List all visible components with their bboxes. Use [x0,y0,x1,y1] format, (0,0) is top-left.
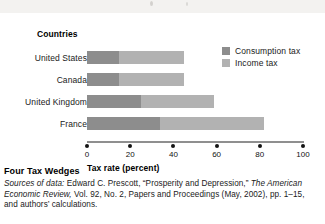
legend-item: Consumption tax [222,46,300,56]
category-label: Canada [57,75,87,85]
bar-chart: Countries United StatesCanadaUnited King… [0,13,325,158]
x-axis-tick-dot [258,144,262,148]
bar-row [87,51,184,64]
category-label: United Kingdom [25,97,87,107]
x-axis-tick-label: 100 [296,150,309,159]
bar-segment [87,117,160,130]
bar-row [87,117,264,130]
x-axis-tick-label: 60 [212,150,221,159]
legend-item: Income tax [222,58,300,68]
caption-title: Four Tax Wedges [4,166,320,176]
bar-segment [119,73,184,86]
figure-caption: Four Tax Wedges Sources of data: Edward … [4,166,320,211]
x-axis-tick-label: 40 [169,150,178,159]
caption-source: Sources of data: Edward C. Prescott, “Pr… [4,179,320,211]
x-axis-tick-label: 80 [255,150,264,159]
legend-swatch-icon [222,59,230,67]
x-axis-tick-dot [85,144,89,148]
bar-row [87,95,214,108]
category-label: United States [35,53,87,63]
scan-artifact-band [0,0,325,13]
bar-segment [87,73,119,86]
legend-label: Income tax [235,58,278,68]
bar-segment [87,95,141,108]
bar-segment [119,51,184,64]
x-axis-line [87,141,304,143]
bar-segment [87,51,119,64]
x-axis-tick-dot [171,144,175,148]
category-label: France [60,119,87,129]
bar-segment [160,117,264,130]
legend-label: Consumption tax [235,46,300,56]
category-axis-title: Countries [37,29,78,39]
bar-row [87,73,184,86]
x-axis-tick-label: 20 [126,150,135,159]
source-text-1: Edward C. Prescott, “Prosperity and Depr… [64,179,250,188]
figure-panel: Countries United StatesCanadaUnited King… [0,13,325,158]
x-axis-tick-dot [215,144,219,148]
x-axis-tick-dot [128,144,132,148]
source-prefix: Sources of data: [4,179,64,188]
bar-segment [141,95,214,108]
legend-swatch-icon [222,47,230,55]
chart-legend: Consumption taxIncome tax [222,46,300,70]
x-axis-tick-label: 0 [85,150,89,159]
x-axis-tick-dot [301,144,305,148]
